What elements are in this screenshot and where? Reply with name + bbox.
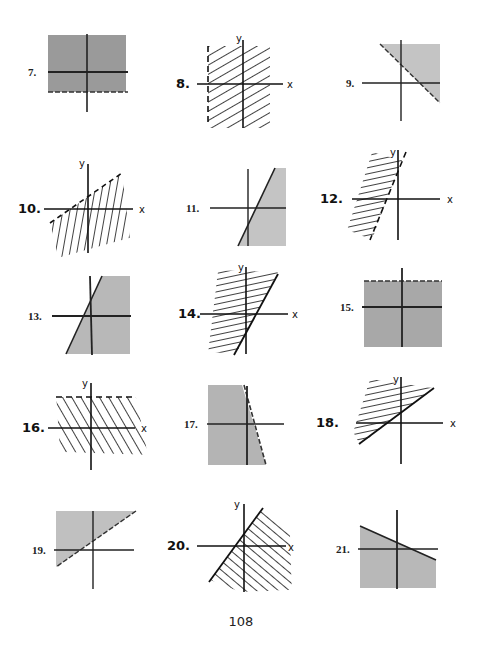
graph-13: 13.	[28, 276, 131, 355]
graph-label: 9.	[346, 77, 355, 89]
graph-12: y x 12.	[320, 147, 453, 240]
x-axis-label: x	[292, 309, 298, 320]
graph-8: y x 8.	[176, 33, 293, 128]
graph-label: 11.	[186, 202, 199, 214]
x-axis-label: x	[450, 418, 456, 429]
graph-label: 15.	[340, 301, 354, 313]
y-axis-label: y	[393, 374, 399, 385]
y-axis-label: y	[236, 33, 242, 44]
graph-label: 19.	[32, 544, 46, 556]
x-axis-label: x	[287, 79, 293, 90]
y-axis-label: y	[79, 158, 85, 169]
graph-20: y x 20.	[167, 499, 294, 592]
graph-label: 10.	[18, 201, 41, 216]
graph-label: 16.	[22, 420, 45, 435]
textbook-page: 7. y x 8. 9. y x 10. 11.	[0, 0, 482, 664]
graph-label: 8.	[176, 76, 190, 91]
graph-label: 13.	[28, 310, 42, 322]
y-axis-label: y	[234, 499, 240, 510]
graph-19: 19.	[32, 511, 136, 589]
x-axis-label: x	[288, 542, 294, 553]
graph-label: 7.	[28, 66, 37, 78]
graph-21: 21.	[336, 510, 438, 589]
graph-10: y x 10.	[18, 158, 145, 258]
page-number: 108	[0, 614, 482, 629]
graph-label: 21.	[336, 543, 350, 555]
graph-17: 17.	[184, 385, 284, 465]
graph-grid: 7. y x 8. 9. y x 10. 11.	[0, 0, 482, 664]
y-axis-label: y	[390, 147, 396, 158]
y-axis-label: y	[238, 262, 244, 273]
x-axis-label: x	[139, 204, 145, 215]
graph-label: 18.	[316, 415, 339, 430]
graph-label: 17.	[184, 418, 198, 430]
graph-15: 15.	[340, 268, 442, 347]
graph-label: 14.	[178, 306, 201, 321]
graph-11: 11.	[186, 168, 286, 246]
graph-14: y x 14.	[178, 262, 298, 355]
graph-7: 7.	[28, 34, 128, 112]
x-axis-label: x	[447, 194, 453, 205]
graph-label: 20.	[167, 538, 190, 553]
x-axis-label: x	[141, 423, 147, 434]
graph-9: 9.	[346, 40, 440, 121]
graph-18: y x 18.	[316, 374, 456, 464]
graph-label: 12.	[320, 191, 343, 206]
y-axis-label: y	[82, 378, 88, 389]
graph-16: y x 16.	[22, 378, 148, 470]
